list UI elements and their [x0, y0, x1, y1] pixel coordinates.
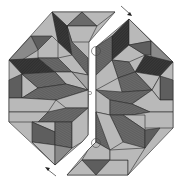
center-point: [88, 91, 91, 94]
arrow-top-right-icon: [121, 6, 132, 16]
arrow-bottom-left-icon: [45, 167, 56, 176]
figure-svg: [0, 0, 178, 182]
octagon-dissection-figure: [0, 0, 178, 182]
